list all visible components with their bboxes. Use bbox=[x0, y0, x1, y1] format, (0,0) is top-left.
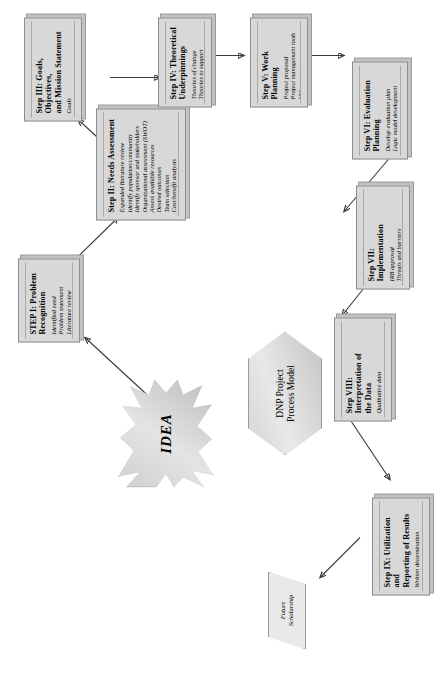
step-box-3: Step III: Goals, Objectives, and Mission… bbox=[24, 17, 82, 121]
list-item: Organizational assessment (SWOT) bbox=[141, 116, 148, 212]
step-5-items: Project proposal Project management tool… bbox=[282, 25, 301, 99]
step-box-9: Step IX: Utilization and Reporting of Re… bbox=[372, 497, 430, 595]
future-line-2: Scholarship bbox=[287, 594, 295, 626]
diagram-canvas: IDEA DNP Project Process Model Future Sc… bbox=[0, 0, 440, 687]
step-1-title: STEP I: Problem Recognition bbox=[29, 266, 48, 334]
list-item: Threats and barriers bbox=[395, 193, 402, 281]
step-9-items: Written dissemination Oral dissemination… bbox=[413, 505, 423, 587]
step-box-4: Step IV: Theoretical Underpinnings Theor… bbox=[158, 17, 212, 107]
step-5-title: Step V: Work Planning bbox=[261, 25, 280, 99]
step-box-1: STEP I: Problem Recognition Identified n… bbox=[18, 258, 80, 342]
list-item: Develop evaluation plan bbox=[384, 69, 391, 151]
list-item: Team selection bbox=[163, 116, 170, 212]
step-6-title: Step VI: Evaluation Planning bbox=[363, 69, 382, 151]
model-hexagon: DNP Project Process Model bbox=[248, 331, 322, 455]
list-item: Project management tools bbox=[289, 25, 296, 99]
step-2-items: Expanded literature review Identify popu… bbox=[118, 116, 179, 212]
step-9-title: Step IX: Utilization and Reporting of Re… bbox=[383, 505, 411, 587]
step-6-title-line1: Step VI: Evaluation bbox=[363, 80, 372, 151]
step-8-title-line1: Step VIII: Interpretation of bbox=[345, 353, 363, 413]
list-item: Expanded literature review bbox=[118, 116, 125, 212]
list-item: Identify population/community bbox=[126, 116, 133, 212]
list-item: Qualitative data bbox=[375, 325, 382, 413]
list-item: Oral dissemination bbox=[421, 505, 423, 587]
step-8-items: Qualitative data Quantitative data Proce… bbox=[375, 325, 385, 413]
arrow-step1-to-step2 bbox=[72, 217, 118, 262]
step-box-6: Step VI: Evaluation Planning Develop eva… bbox=[352, 61, 408, 159]
list-item: IRB approval bbox=[388, 193, 395, 281]
list-item: Quality improvement methods bbox=[399, 69, 401, 151]
step-3-title-line1: Step III: Goals, Objectives, bbox=[35, 57, 53, 113]
model-hexagon-label: DNP Project Process Model bbox=[248, 331, 322, 455]
list-item: Literature review bbox=[65, 266, 72, 334]
step-4-title-line2: Underpinnings bbox=[178, 45, 187, 99]
list-item: Identify sponsor and stakeholders bbox=[133, 116, 140, 212]
list-item: Identified need bbox=[50, 266, 57, 334]
idea-shape: IDEA bbox=[118, 379, 214, 487]
step-4-title: Step IV: Theoretical Underpinnings bbox=[169, 25, 188, 99]
list-item: Project proposal bbox=[282, 25, 289, 99]
step-1-title-line2: Recognition bbox=[38, 291, 47, 334]
list-item: Process/outcome objectives bbox=[73, 25, 75, 113]
step-4-title-line1: Step IV: Theoretical bbox=[169, 27, 178, 99]
list-item: Milestones bbox=[297, 25, 301, 99]
step-6-items: Develop evaluation plan Logic model deve… bbox=[384, 69, 401, 151]
step-4-items: Theories of change Theories to support p… bbox=[190, 25, 205, 99]
list-item: Assess available resources bbox=[148, 116, 155, 212]
list-item: Theories of change bbox=[190, 25, 197, 99]
hexagon-line-2: Process Model bbox=[285, 365, 296, 422]
list-item: Goals bbox=[65, 25, 72, 113]
step-7-items: IRB approval Threats and barriers Monito… bbox=[388, 193, 403, 281]
step-box-5: Step V: Work Planning Project proposal P… bbox=[250, 17, 308, 107]
list-item: Cost/benefit analysis bbox=[170, 116, 177, 212]
arrow-step8-to-step9 bbox=[350, 419, 390, 479]
list-item: Written dissemination bbox=[413, 505, 420, 587]
step-box-2: Step II: Needs Assessment Expanded liter… bbox=[96, 108, 186, 220]
future-scholarship-label: Future Scholarship bbox=[268, 571, 306, 649]
list-item: Desired outcomes bbox=[155, 116, 162, 212]
step-box-8: Step VIII: Interpretation of the Data Qu… bbox=[334, 317, 392, 421]
step-8-title: Step VIII: Interpretation of the Data bbox=[345, 325, 373, 413]
step-1-items: Identified need Problem statement Litera… bbox=[50, 266, 72, 334]
step-7-title: Step VII: Implementation bbox=[367, 193, 386, 281]
idea-label: IDEA bbox=[118, 379, 214, 487]
step-box-7: Step VII: Implementation IRB approval Th… bbox=[356, 185, 410, 289]
list-item: Logic model development bbox=[391, 69, 398, 151]
list-item: Define scope of project bbox=[178, 116, 179, 212]
step-9-title-line1: Step IX: Utilization and bbox=[383, 517, 401, 587]
future-scholarship-shape: Future Scholarship bbox=[268, 571, 306, 649]
step-8-title-line2: the Data bbox=[364, 382, 373, 413]
step-9-title-line2: Reporting of Results bbox=[402, 513, 411, 587]
arrow-step9-to-future bbox=[320, 537, 360, 577]
list-item: Quantitative data bbox=[383, 325, 385, 413]
future-line-1: Future bbox=[279, 601, 287, 619]
step-2-title: Step II: Needs Assessment bbox=[107, 116, 116, 212]
step-1-title-line1: STEP I: Problem bbox=[29, 273, 38, 334]
step-6-title-line2: Planning bbox=[372, 119, 381, 151]
list-item: Problem statement bbox=[57, 266, 64, 334]
step-3-title-line2: and Mission Statement bbox=[54, 31, 63, 113]
step-3-title: Step III: Goals, Objectives, and Mission… bbox=[35, 25, 63, 113]
step-3-items: Goals Process/outcome objectives Develop… bbox=[65, 25, 75, 113]
list-item: Theories to support bbox=[197, 25, 204, 99]
hexagon-line-1: DNP Project bbox=[274, 369, 285, 417]
